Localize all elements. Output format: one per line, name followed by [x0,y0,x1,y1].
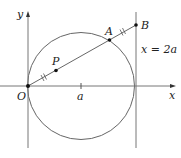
point-P [54,69,58,73]
line-x-equals-2a-label: x = 2a [141,43,177,56]
y-axis-label: y [16,8,24,21]
origin-label: O [17,90,26,103]
point-P-label: P [51,55,60,68]
segment-OB [28,25,136,86]
point-B [134,23,138,27]
point-B-label: B [140,19,149,32]
y-axis-arrow-icon [26,11,30,17]
point-A-label: A [104,25,113,38]
equal-marks-AB-icon [120,28,126,36]
circle-diagram: y x O a P A B x = 2a [0,0,181,158]
point-A [108,38,112,42]
x-axis-arrow-icon [170,84,176,88]
tick-a-label: a [77,90,84,103]
point-O [26,84,30,88]
x-axis-label: x [169,89,176,102]
